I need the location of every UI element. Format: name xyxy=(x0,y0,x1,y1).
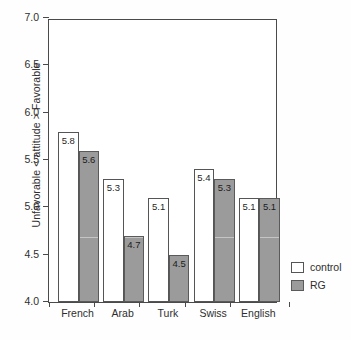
y-axis-tick: 7.0 xyxy=(43,17,49,18)
legend-item-label: RG xyxy=(310,279,326,291)
bar-group: 5.15.1 xyxy=(239,20,280,302)
y-axis-tick-label: 5.0 xyxy=(24,200,39,212)
bar-control-french[interactable]: 5.8 xyxy=(58,132,79,302)
bars-layer: 5.85.65.34.75.14.55.45.35.15.1 xyxy=(49,20,276,302)
y-axis-tick-label: 7.0 xyxy=(24,11,39,23)
bar-value-label: 4.5 xyxy=(173,258,186,269)
bar-value-label: 5.3 xyxy=(107,182,120,193)
y-axis-tick-label: 6.5 xyxy=(24,58,39,70)
bar-value-label: 4.7 xyxy=(127,239,140,250)
bar-value-label: 5.1 xyxy=(263,201,276,212)
white-square-icon xyxy=(291,262,304,273)
gray-square-icon xyxy=(291,280,304,291)
bar-control-swiss[interactable]: 5.4 xyxy=(194,169,215,302)
legend-item-label: control xyxy=(310,261,342,273)
bar-group: 5.45.3 xyxy=(194,20,235,302)
bar-value-label: 5.6 xyxy=(82,154,95,165)
bar-rg-swiss[interactable]: 5.3 xyxy=(214,179,235,302)
bar-value-label: 5.8 xyxy=(62,135,75,146)
bar-rg-french[interactable]: 5.6 xyxy=(79,151,100,302)
bar-group: 5.14.5 xyxy=(148,20,189,302)
y-axis-tick-label: 5.5 xyxy=(24,153,39,165)
bar-rg-english[interactable]: 5.1 xyxy=(259,198,280,302)
bar-rg-arab[interactable]: 4.7 xyxy=(124,236,145,302)
bar-chart-figure: Unfavorable < attitude > Favorable 4.04.… xyxy=(0,0,351,340)
legend-item-control[interactable]: control xyxy=(291,258,342,276)
bar-control-arab[interactable]: 5.3 xyxy=(103,179,124,302)
bar-value-label: 5.3 xyxy=(218,182,231,193)
y-axis-title: Unfavorable < attitude > Favorable xyxy=(30,15,42,275)
plot-area: 4.04.55.05.56.06.57.0 5.85.65.34.75.14.5… xyxy=(48,19,277,303)
legend-item-rg[interactable]: RG xyxy=(291,276,342,294)
x-axis-tick xyxy=(289,302,290,307)
x-axis-category-english: English xyxy=(228,307,288,319)
bar-value-label: 5.1 xyxy=(152,201,165,212)
y-axis-tick-label: 6.0 xyxy=(24,106,39,118)
y-axis-tick-label: 4.0 xyxy=(24,295,39,307)
bar-control-english[interactable]: 5.1 xyxy=(239,198,260,302)
y-axis-tick-label: 4.5 xyxy=(24,248,39,260)
bar-value-label: 5.4 xyxy=(197,172,210,183)
chart-legend: controlRG xyxy=(291,258,342,294)
bar-control-turk[interactable]: 5.1 xyxy=(148,198,169,302)
bar-value-label: 5.1 xyxy=(242,201,255,212)
bar-rg-turk[interactable]: 4.5 xyxy=(169,255,190,302)
bar-group: 5.85.6 xyxy=(58,20,99,302)
bar-group: 5.34.7 xyxy=(103,20,144,302)
